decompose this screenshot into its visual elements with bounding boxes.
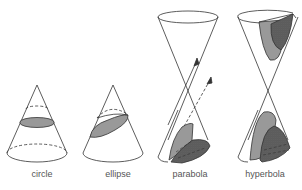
label-circle: circle bbox=[31, 169, 52, 179]
label-parabola: parabola bbox=[172, 169, 207, 179]
label-hyperbola: hyperbola bbox=[245, 169, 285, 179]
hyperbola-cone bbox=[238, 10, 298, 162]
parabola-cone bbox=[158, 11, 218, 163]
circle-cone bbox=[7, 85, 67, 162]
ellipse-cone bbox=[83, 85, 143, 162]
label-ellipse: ellipse bbox=[105, 169, 131, 179]
ellipse-section bbox=[90, 115, 128, 138]
conic-sections-diagram bbox=[0, 0, 302, 190]
